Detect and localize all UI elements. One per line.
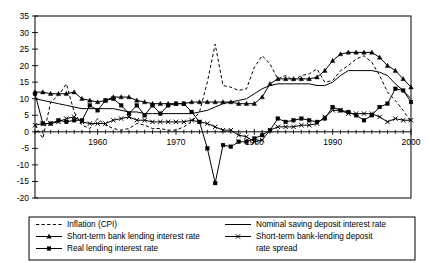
marker-square — [221, 143, 225, 147]
marker-square — [119, 103, 123, 107]
y-tick-label: 30 — [20, 28, 30, 38]
marker-square — [245, 140, 249, 144]
marker-square — [362, 118, 366, 122]
marker-square — [393, 87, 397, 91]
x-tick-label: 2000 — [402, 137, 421, 147]
marker-square — [276, 117, 280, 121]
y-tick-label: 5 — [24, 110, 29, 120]
x-tick-label: 1990 — [323, 137, 342, 147]
y-tick-label: 35 — [20, 11, 30, 21]
marker-square — [104, 98, 108, 102]
y-tick-label: -10 — [17, 160, 30, 170]
marker-square — [409, 100, 413, 104]
x-tick-label: 1970 — [167, 137, 186, 147]
y-tick-label: -20 — [17, 193, 30, 203]
y-tick-label: 0 — [24, 127, 29, 137]
marker-square — [299, 117, 303, 121]
marker-square — [205, 146, 209, 150]
marker-square — [229, 145, 233, 149]
x-tick-label: 1960 — [88, 137, 107, 147]
marker-square — [174, 102, 178, 106]
marker-square — [135, 103, 139, 107]
marker-square — [213, 181, 217, 185]
y-tick-label: 25 — [20, 44, 30, 54]
legend-label: Real lending interest rate — [67, 244, 158, 253]
legend-label: Short-term bank-lending deposit — [256, 232, 373, 241]
marker-square — [386, 102, 390, 106]
marker-square — [260, 133, 264, 137]
marker-square — [88, 103, 92, 107]
interest-rate-line-chart: -20-15-10-505101520253035 19601970198019… — [0, 0, 430, 263]
y-tick-label: 20 — [20, 61, 30, 71]
y-tick-label: 10 — [20, 94, 30, 104]
marker-square — [284, 120, 288, 124]
marker-square — [166, 103, 170, 107]
marker-square — [307, 118, 311, 122]
legend-item-6[interactable]: rate spread — [256, 244, 298, 253]
y-tick-label: -15 — [17, 176, 30, 186]
chart-figure: -20-15-10-505101520253035 19601970198019… — [0, 0, 430, 263]
y-tick-label: 15 — [20, 77, 30, 87]
marker-square — [182, 102, 186, 106]
marker-square — [151, 103, 155, 107]
marker-square — [111, 97, 115, 101]
legend-label: Short-term bank lending interest rate — [67, 232, 200, 241]
marker-square — [378, 105, 382, 109]
marker-square — [47, 247, 51, 251]
marker-square — [237, 140, 241, 144]
legend-label: rate spread — [256, 244, 298, 253]
y-tick-label: -5 — [21, 143, 29, 153]
legend-label: Inflation (CPI) — [67, 220, 117, 229]
marker-square — [292, 118, 296, 122]
marker-square — [33, 92, 37, 96]
legend-label: Nominal saving deposit interest rate — [256, 220, 387, 229]
